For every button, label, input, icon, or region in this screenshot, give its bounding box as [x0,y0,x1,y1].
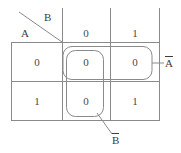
header-row-variable-label: A [21,28,29,39]
row-header-0: 0 [30,57,44,68]
group-leader-vertical [97,113,112,134]
row-header-1: 1 [30,96,44,107]
group-label-a-bar: A [165,56,173,69]
cell-r1-c1: 1 [128,96,142,107]
column-header-0: 0 [79,28,93,39]
kmap-line-art [0,0,181,153]
group-label-a-letter: A [165,58,173,69]
column-header-1: 1 [128,28,142,39]
karnaugh-map-diagram: B A 0 1 0 1 0 0 0 1 A B [0,0,181,153]
cell-r1-c0: 0 [79,96,93,107]
group-label-b-letter: B [112,135,119,146]
cell-r0-c1: 0 [128,57,142,68]
cell-r0-c0: 0 [79,57,93,68]
header-col-variable-label: B [44,12,51,23]
group-label-b-bar: B [112,133,119,146]
